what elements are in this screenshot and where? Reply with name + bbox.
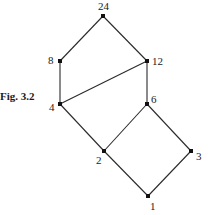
node-2 xyxy=(102,149,106,153)
node-label-24: 24 xyxy=(98,0,110,12)
node-1 xyxy=(146,194,150,198)
node-label-3: 3 xyxy=(196,150,202,162)
node-6 xyxy=(145,102,149,106)
edge-24-8 xyxy=(60,16,103,61)
edge-24-12 xyxy=(103,16,147,61)
edge-4-2 xyxy=(60,104,104,151)
edge-6-2 xyxy=(104,104,147,151)
node-label-8: 8 xyxy=(48,54,54,66)
node-label-2: 2 xyxy=(96,154,102,166)
edge-6-3 xyxy=(147,104,191,151)
edge-2-1 xyxy=(104,151,148,196)
node-label-12: 12 xyxy=(152,55,163,67)
figure-caption: Fig. 3.2 xyxy=(0,90,35,102)
node-12 xyxy=(145,59,149,63)
edge-12-4 xyxy=(60,61,147,104)
edge-3-1 xyxy=(148,151,191,196)
node-label-4: 4 xyxy=(49,101,55,113)
diagram-labels: 2481246231 xyxy=(48,0,202,212)
diagram-edges xyxy=(60,16,191,196)
hasse-diagram: 2481246231 xyxy=(0,0,209,215)
node-label-1: 1 xyxy=(150,200,156,212)
node-8 xyxy=(58,59,62,63)
node-3 xyxy=(189,149,193,153)
node-label-6: 6 xyxy=(151,93,157,105)
node-24 xyxy=(101,14,105,18)
node-4 xyxy=(58,102,62,106)
